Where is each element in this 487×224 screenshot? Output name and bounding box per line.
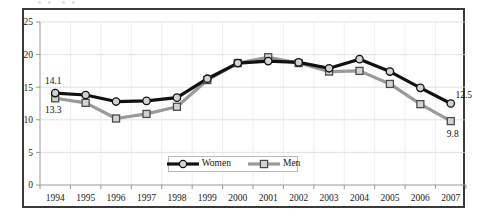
data-point-label: 14.1 xyxy=(45,76,62,86)
data-point-label: 9.8 xyxy=(447,129,459,139)
legend-label-women: Women xyxy=(202,159,231,169)
x-axis-tick-label: 1995 xyxy=(76,193,95,203)
x-axis-tick-label: 2004 xyxy=(350,193,369,203)
x-axis-tick-label: 1998 xyxy=(167,193,186,203)
data-point-label: 13.3 xyxy=(45,105,62,115)
x-axis-tick-label: 1999 xyxy=(198,193,217,203)
chart-figure: 0510152025 19941995199619971998199920002… xyxy=(0,0,487,224)
x-axis-tick-label: 2005 xyxy=(380,193,399,203)
x-axis-tick-label: 2007 xyxy=(441,193,460,203)
legend-label-men: Men xyxy=(283,159,300,169)
x-axis-tick-label: 2000 xyxy=(228,193,247,203)
legend-entry-women: Women xyxy=(166,158,231,170)
x-axis-tick-label: 1997 xyxy=(137,193,156,203)
legend-swatch-men-icon xyxy=(247,158,281,170)
y-axis-ticks: 0510152025 xyxy=(24,17,34,190)
x-axis-tick-label: 2006 xyxy=(411,193,430,203)
y-axis-tick-label: 20 xyxy=(24,50,34,60)
legend-entry-men: Men xyxy=(247,158,300,170)
y-axis-tick-label: 10 xyxy=(24,115,34,125)
data-point-label: 12.5 xyxy=(455,90,472,100)
data-labels: 14.113.312.59.8 xyxy=(45,76,472,139)
x-axis-tick-label: 1996 xyxy=(107,193,126,203)
line-chart-plot: 0510152025 19941995199619971998199920002… xyxy=(0,0,487,224)
y-axis-tick-label: 5 xyxy=(28,148,33,158)
y-axis-tick-label: 15 xyxy=(24,83,34,93)
y-axis-tick-label: 25 xyxy=(24,17,34,27)
y-axis-tick-label: 0 xyxy=(28,180,33,190)
legend-swatch-women-icon xyxy=(166,158,200,170)
x-axis-tick-label: 2001 xyxy=(259,193,278,203)
chart-legend: Women Men xyxy=(168,156,298,172)
x-axis-ticks: 1994199519961997199819992000200120022003… xyxy=(46,193,461,203)
x-axis-tick-label: 2003 xyxy=(320,193,339,203)
x-axis-tick-label: 1994 xyxy=(46,193,65,203)
x-axis-tick-label: 2002 xyxy=(289,193,308,203)
